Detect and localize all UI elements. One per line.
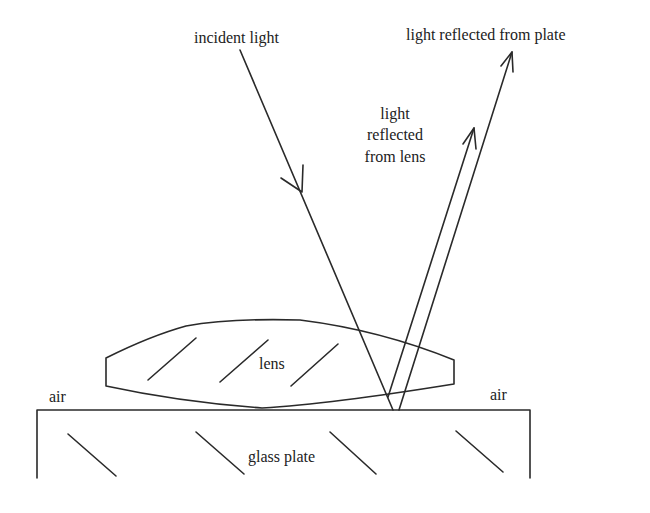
label-glass-plate: glass plate <box>248 448 315 466</box>
arrowhead-down-icon <box>281 165 303 192</box>
label-lens-reflected-3: from lens <box>365 148 426 165</box>
arrowhead-up-icon <box>463 128 476 149</box>
glass-plate <box>37 410 530 478</box>
label-air-left: air <box>49 388 67 405</box>
label-light-reflected-from-plate: light reflected from plate <box>406 26 565 44</box>
label-lens-reflected-1: light <box>380 105 410 123</box>
lens-hatching <box>148 338 338 386</box>
plate-reflected-ray <box>399 52 513 410</box>
lens-reflected-ray <box>388 128 476 397</box>
label-lens-reflected-2: reflected <box>367 126 423 143</box>
label-air-right: air <box>490 386 508 403</box>
diagram-canvas: incident light light reflected from plat… <box>0 0 650 513</box>
label-lens: lens <box>259 355 285 372</box>
label-incident-light: incident light <box>194 29 279 47</box>
